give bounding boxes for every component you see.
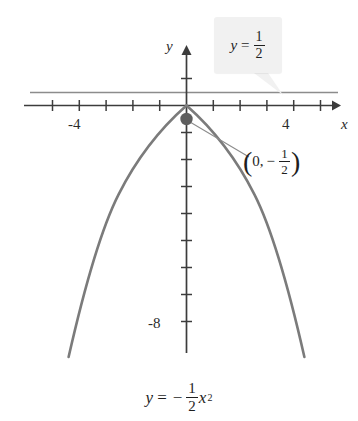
open-paren: ( [243, 150, 252, 174]
point-marker-dot [180, 113, 192, 125]
point-denominator: 2 [279, 162, 290, 176]
equation-exponent: 2 [207, 393, 212, 403]
point-minus-sign: − [264, 154, 278, 169]
y-tick-label-neg8: -8 [148, 316, 161, 331]
graph-figure: y = 1 2 y x -4 4 -8 ( 0, − 1 2 ) [0, 0, 358, 421]
equation-equals: = [154, 389, 170, 406]
callout-denominator: 2 [254, 46, 265, 61]
point-fraction: 1 2 [279, 147, 290, 176]
point-coordinate-label: ( 0, − 1 2 ) [243, 147, 300, 176]
y-axis-label: y [166, 39, 173, 54]
x-axis-arrow-icon [332, 101, 341, 111]
caption-equation: y = − 1 2 x2 [0, 381, 358, 414]
plot-canvas [0, 0, 358, 421]
close-paren: ) [291, 150, 300, 174]
y-axis-arrow-icon [182, 45, 192, 55]
callout-tail [250, 70, 283, 95]
callout-lhs: y [230, 38, 238, 53]
callout-equation: y = 1 2 [214, 17, 282, 73]
x-tick-label-pos4: 4 [282, 117, 290, 132]
equation-lhs: y [146, 389, 155, 406]
equation-numerator: 1 [186, 381, 198, 397]
point-x-value: 0, [252, 154, 263, 169]
callout-box: y = 1 2 [214, 17, 282, 73]
x-axis-label: x [341, 117, 348, 132]
callout-numerator: 1 [254, 30, 265, 45]
equation-minus-sign: − [170, 389, 186, 406]
point-leader-line [190, 122, 249, 157]
x-tick-label-neg4: -4 [68, 117, 81, 132]
point-numerator: 1 [279, 147, 290, 161]
equation-denominator: 2 [186, 398, 198, 414]
equation-variable: x [199, 389, 208, 406]
callout-fraction: 1 2 [254, 30, 265, 61]
equation-fraction: 1 2 [186, 381, 198, 414]
callout-equals: = [238, 38, 252, 53]
